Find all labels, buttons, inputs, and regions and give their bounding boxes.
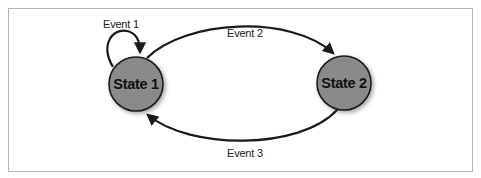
state-diagram: Event 1 Event 2 Event 3 State 1 State 2 — [0, 0, 481, 178]
state2-label: State 2 — [321, 75, 367, 91]
state-node-state2: State 2 — [317, 56, 371, 110]
state-node-state1: State 1 — [109, 57, 163, 111]
state1-label: State 1 — [113, 76, 159, 92]
transition-event2-label: Event 2 — [227, 27, 263, 39]
transition-event1-label: Event 1 — [103, 18, 139, 30]
transition-event3-label: Event 3 — [227, 147, 263, 159]
